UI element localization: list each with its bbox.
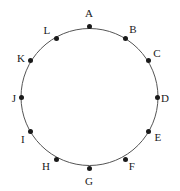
vertex-label-g: G [85, 176, 93, 187]
vertex-label-f: F [129, 161, 135, 172]
circle-path [21, 29, 158, 166]
vertex-label-a: A [85, 8, 93, 19]
vertex-point-g [87, 166, 92, 171]
vertex-point-l [54, 36, 59, 41]
vertex-point-h [54, 157, 59, 162]
circle-diagram: ABCDEFGHIJKL [0, 0, 180, 191]
vertex-point-d [155, 95, 160, 100]
vertex-label-b: B [129, 24, 137, 35]
vertex-label-d: D [161, 93, 169, 104]
vertex-label-l: L [44, 25, 51, 36]
vertex-point-i [28, 129, 33, 134]
vertex-label-i: I [21, 134, 25, 145]
vertex-label-e: E [155, 132, 162, 143]
vertex-point-a [87, 24, 92, 29]
vertex-label-c: C [153, 48, 161, 59]
vertex-point-j [19, 95, 24, 100]
vertex-label-j: J [12, 93, 16, 104]
vertex-label-h: H [42, 161, 50, 172]
circle-outline [0, 0, 180, 191]
vertex-label-k: K [17, 53, 25, 64]
vertex-point-e [146, 129, 151, 134]
